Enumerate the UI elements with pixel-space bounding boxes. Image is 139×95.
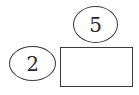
empty-rectangle-box bbox=[60, 47, 133, 87]
ellipse-top-node: 5 bbox=[73, 6, 118, 43]
ellipse-top-label: 5 bbox=[89, 15, 102, 35]
ellipse-left-label: 2 bbox=[26, 54, 39, 74]
ellipse-left-node: 2 bbox=[9, 46, 56, 81]
